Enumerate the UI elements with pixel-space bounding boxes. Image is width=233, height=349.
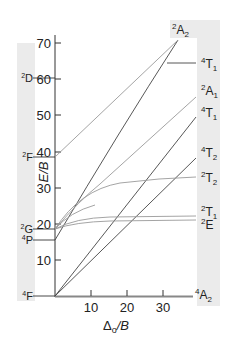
svg-text:30: 30 bbox=[156, 300, 170, 315]
y-axis-label: E/B bbox=[36, 161, 51, 182]
x-tick-labels: 10 20 30 bbox=[84, 300, 170, 315]
tanabe-sugano-chart: 70 60 50 40 30 20 10 E/B 10 20 30 Δo/B 2… bbox=[0, 0, 233, 349]
svg-text:60: 60 bbox=[37, 72, 51, 87]
line-2A1 bbox=[55, 97, 196, 229]
x-ticks bbox=[91, 290, 163, 296]
x-axis-label: Δo/B bbox=[103, 318, 129, 335]
line-4T2 bbox=[55, 158, 196, 296]
svg-text:20: 20 bbox=[120, 300, 134, 315]
svg-text:50: 50 bbox=[37, 108, 51, 123]
quartet-lines bbox=[55, 40, 196, 296]
svg-text:20: 20 bbox=[37, 217, 51, 232]
svg-text:40: 40 bbox=[37, 145, 51, 160]
svg-text:70: 70 bbox=[37, 36, 51, 51]
svg-text:10: 10 bbox=[84, 300, 98, 315]
doublet-lines bbox=[55, 40, 196, 229]
line-2A2 bbox=[55, 40, 178, 157]
y-tick-labels: 70 60 50 40 30 20 10 bbox=[37, 36, 51, 268]
svg-text:10: 10 bbox=[37, 253, 51, 268]
line-2G-branch bbox=[55, 205, 95, 229]
